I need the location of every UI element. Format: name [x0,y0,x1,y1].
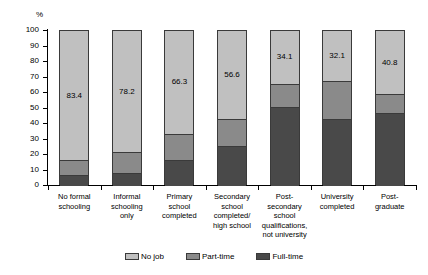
bar-1: 83.4 [59,30,89,185]
bar-segment-no-job: 78.2 [113,31,141,152]
x-axis-category-label: Universitycompleted [311,192,364,211]
legend-swatch-icon [186,253,200,260]
y-axis-tick-label: 10 [9,166,39,174]
bar-segment-full-time [60,175,88,186]
x-axis-category-label: No formalschooling [48,192,101,211]
bar-segment-part-time [165,134,193,161]
x-axis-category-label-line: completed/ [206,211,259,221]
bar-5: 34.1 [270,30,300,185]
bar-segment-full-time [165,160,193,186]
x-axis-category-label-line: school [258,211,311,221]
bar-value-label: 34.1 [271,52,299,61]
y-axis-tick-label: 100 [9,26,39,34]
y-axis-tick-label: 90 [9,42,39,50]
bar-value-label: 40.8 [376,58,404,67]
x-axis-category-label-line: qualifications, [258,221,311,231]
x-axis-category-label: Secondaryschoolcompleted/high school [206,192,259,230]
bar-segment-part-time [271,84,299,107]
bar-segment-no-job: 56.6 [218,31,246,119]
bar-4: 56.6 [217,30,247,185]
y-axis-tick-label: 60 [9,88,39,96]
bar-value-label: 32.1 [323,51,351,60]
bar-segment-full-time [376,113,404,186]
y-axis-tick-label: 80 [9,57,39,65]
bar-segment-full-time [113,173,141,186]
y-axis-tick-label: 20 [9,150,39,158]
x-axis-category-label: Post-graduate [363,192,416,211]
legend-item-label: Part-time [202,252,234,261]
x-axis-category-label-line: University [311,192,364,202]
bar-segment-part-time [323,81,351,120]
bar-segment-no-job: 32.1 [323,31,351,81]
bar-value-label: 83.4 [60,91,88,100]
legend-item-no-job[interactable]: No job [125,252,164,261]
x-axis-category-label-line: completed [153,211,206,221]
bar-3: 66.3 [164,30,194,185]
bar-6: 32.1 [322,30,352,185]
bar-segment-part-time [218,119,246,146]
x-axis-category-label-line: Secondary [206,192,259,202]
x-axis-category-label-line: only [101,211,154,221]
x-axis-category-label-line: high school [206,221,259,231]
x-axis-category-label-line: Post- [258,192,311,202]
bar-segment-full-time [271,107,299,186]
bar-segment-full-time [218,146,246,186]
y-axis-tick-label: 0 [9,181,39,189]
plot-area: 83.478.266.356.634.132.140.8 [48,30,416,185]
bar-segment-full-time [323,119,351,186]
y-axis-tick-label: 70 [9,73,39,81]
x-axis-category-label: Primaryschoolcompleted [153,192,206,221]
x-axis-category-label-line: not university [258,230,311,240]
bar-segment-no-job: 66.3 [165,31,193,134]
bar-segment-no-job: 83.4 [60,31,88,160]
bar-value-label: 56.6 [218,70,246,79]
bar-segment-part-time [60,160,88,175]
legend-swatch-icon [256,253,270,260]
stacked-bar-chart: % 0102030405060708090100 83.478.266.356.… [0,0,428,275]
bar-segment-no-job: 40.8 [376,31,404,94]
y-axis-tick-label: 50 [9,104,39,112]
bar-segment-no-job: 34.1 [271,31,299,84]
y-axis-unit-label: % [36,10,43,19]
x-axis-category-label-line: school [153,202,206,212]
x-axis-category-label-line: school [206,202,259,212]
legend-item-full-time[interactable]: Full-time [256,252,303,261]
legend-item-part-time[interactable]: Part-time [186,252,234,261]
x-axis-category-label: Informalschoolingonly [101,192,154,221]
x-axis-category-label-line: Primary [153,192,206,202]
x-axis-category-label-line: schooling [48,202,101,212]
x-axis-tick [206,186,207,190]
x-axis-category-label-line: schooling [101,202,154,212]
bar-2: 78.2 [112,30,142,185]
legend-item-label: Full-time [272,252,303,261]
x-axis-tick [363,186,364,190]
x-axis-tick [416,186,417,190]
x-axis-category-label-line: completed [311,202,364,212]
x-axis-tick [311,186,312,190]
bar-value-label: 66.3 [165,77,193,86]
y-axis-tick-label: 30 [9,135,39,143]
x-axis-tick [101,186,102,190]
x-axis-category-label: Post-secondaryschoolqualifications,not u… [258,192,311,240]
x-axis-tick [48,186,49,190]
chart-legend: No jobPart-timeFull-time [0,252,428,261]
legend-swatch-icon [125,253,139,260]
x-axis-tick [153,186,154,190]
legend-item-label: No job [141,252,164,261]
bar-segment-part-time [376,94,404,113]
y-axis-tick-label: 40 [9,119,39,127]
x-axis-category-label-line: Informal [101,192,154,202]
bar-segment-part-time [113,152,141,173]
x-axis-category-label-line: graduate [363,202,416,212]
x-axis-category-label-line: Post- [363,192,416,202]
x-axis-category-label-line: secondary [258,202,311,212]
x-axis-category-label-line: No formal [48,192,101,202]
bar-7: 40.8 [375,30,405,185]
x-axis-tick [258,186,259,190]
bar-value-label: 78.2 [113,87,141,96]
